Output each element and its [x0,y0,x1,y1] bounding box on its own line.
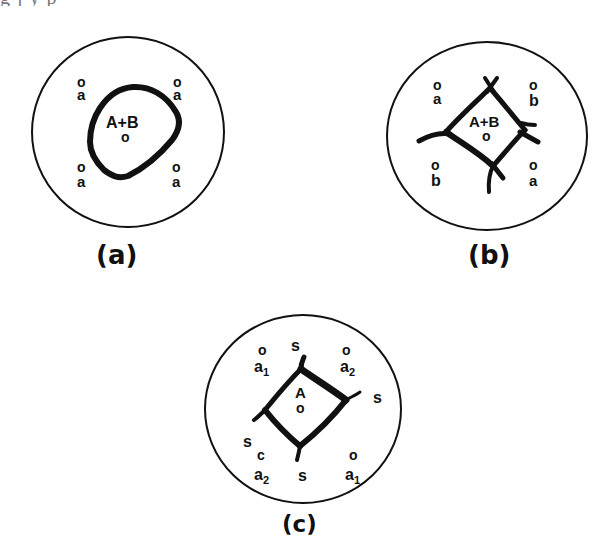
label-a-bl: a [77,173,86,190]
caption-b: (b) [468,240,510,270]
panel-b: A+B o o a o b o b o a (b) [387,42,587,270]
label-b-tl: a [433,90,442,107]
marker-c-br: o [349,447,358,463]
center-marker-c: o [296,400,305,416]
label-c-tr: a2 [340,358,355,378]
marker-c-tr: o [342,342,351,358]
marker-b-br: o [529,157,538,173]
label-b-tr: b [529,92,539,109]
label-a-tl: a [77,86,86,103]
marker-c-bl: c [257,447,265,463]
label-b-bl: b [431,172,441,189]
label-a-br: a [172,173,181,190]
label-c-tl: a1 [254,358,269,378]
caption-a: (a) [96,240,137,270]
s-label-c-right: s [373,389,382,406]
s-label-c-top: s [291,337,300,354]
caption-c: (c) [282,511,317,537]
center-marker-a: o [121,129,130,145]
boundary-loop-a [90,87,179,177]
s-label-c-bottom: s [298,467,307,484]
panel-a: A+B o o a o a o a o a (a) [32,37,224,270]
label-a-tr: a [173,86,182,103]
center-label-c: A [295,384,306,401]
marker-b-tr: o [529,77,538,93]
s-label-c-left: s [243,433,252,450]
panel-c: A o o a1 s o a2 s s c a2 s o a1 (c) [205,315,401,537]
label-b-br: a [529,172,538,189]
marker-c-tl: o [258,342,267,358]
label-c-bl: a2 [254,466,269,486]
figure: A+B o o a o a o a o a (a) A+B o [0,0,610,558]
marker-b-bl: o [431,157,440,173]
label-c-br: a1 [345,466,360,486]
center-marker-b: o [482,128,491,144]
